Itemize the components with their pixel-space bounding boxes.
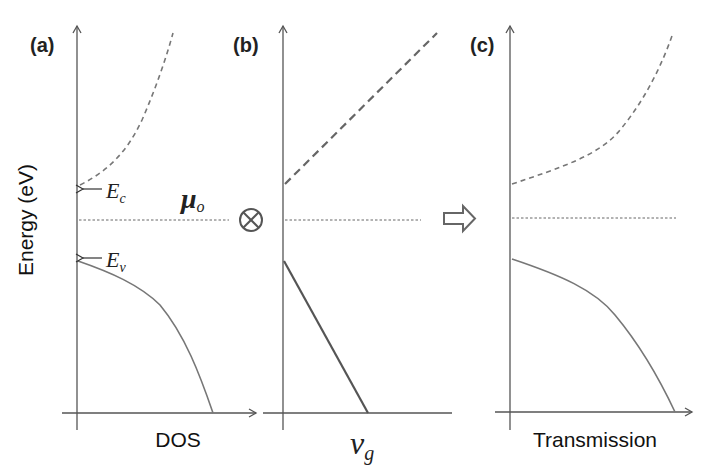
panel-c: (c) Transmission [470,26,692,451]
x-axis-label-a: DOS [155,428,201,451]
x-axis-label-b: vg [350,425,374,465]
implies-arrow-icon [444,206,475,231]
ec-label: Ec [105,178,126,206]
panel-label-a: (a) [30,34,54,56]
multiply-operator-icon [240,209,262,231]
valence-transmission-curve [512,259,675,412]
ev-label: Ev [105,247,126,275]
valence-velocity-line [284,261,368,413]
band-diagram-figure: Energy (eV) (a) Ec Ev μo DOS [0,0,721,475]
conduction-velocity-line [285,33,437,184]
panel-label-c: (c) [470,34,494,56]
panel-a: (a) Ec Ev μo DOS [30,26,256,451]
conduction-transmission-curve [512,33,673,184]
x-axis-label-c: Transmission [533,428,657,451]
mu-label: μo [179,183,205,215]
conduction-dos-curve [80,33,173,185]
panel-label-b: (b) [233,34,259,56]
y-axis-label: Energy (eV) [14,164,37,276]
valence-dos-curve [78,261,213,413]
panel-b: (b) vg [233,26,452,465]
